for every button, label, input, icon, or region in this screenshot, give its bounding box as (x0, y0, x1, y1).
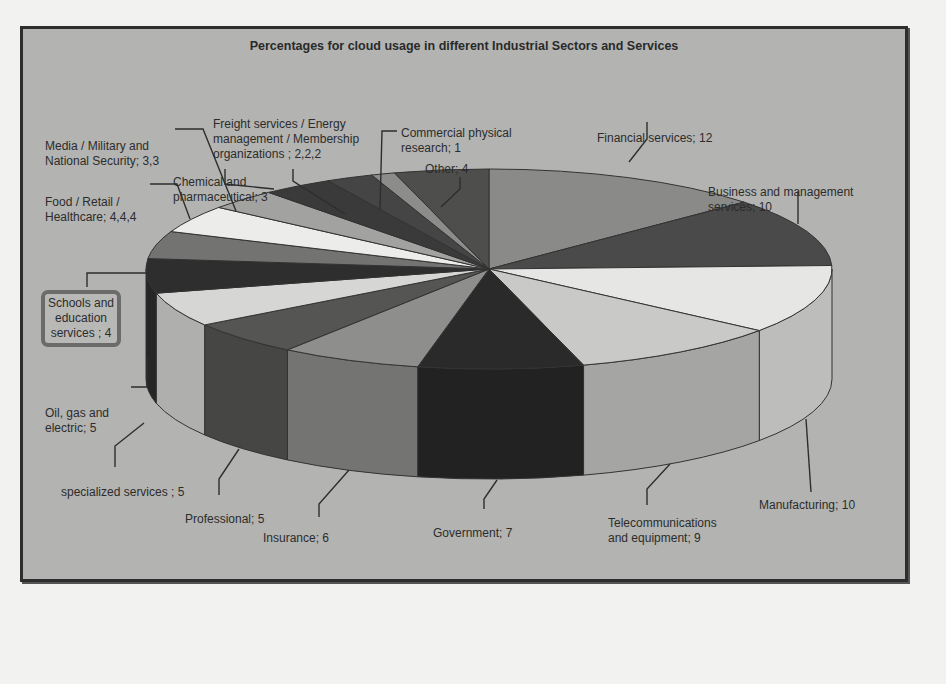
label-line: Schools and (48, 296, 114, 311)
label-manufacturing: Manufacturing; 10 (759, 498, 855, 513)
label-professional: Professional; 5 (185, 512, 264, 527)
label-government: Government; 7 (433, 526, 512, 541)
label-line: and equipment; 9 (608, 531, 717, 546)
label-line: management / Membership (213, 132, 359, 147)
label-line: Freight services / Energy (213, 117, 359, 132)
label-business-management: Business and management services; 10 (708, 185, 853, 215)
label-commercial-research: Commercial physical research; 1 (401, 126, 512, 156)
label-line: research; 1 (401, 141, 512, 156)
label-line: Healthcare; 4,4,4 (45, 210, 136, 225)
label-line: Media / Military and (45, 139, 159, 154)
label-telecommunications: Telecommunications and equipment; 9 (608, 516, 717, 546)
label-specialized-services: specialized services ; 5 (61, 485, 184, 500)
label-chemical-pharmaceutical: Chemical and pharmaceutical; 3 (173, 175, 268, 205)
label-line: Telecommunications (608, 516, 717, 531)
label-line: Chemical and (173, 175, 268, 190)
label-line: organizations ; 2,2,2 (213, 147, 359, 162)
label-oil-gas-electric: Oil, gas and electric; 5 (45, 406, 109, 436)
label-line: education (48, 311, 114, 326)
label-freight-energy-membership: Freight services / Energy management / M… (213, 117, 359, 162)
label-food-retail-healthcare: Food / Retail / Healthcare; 4,4,4 (45, 195, 136, 225)
label-other: Other; 4 (425, 162, 468, 177)
label-line: Food / Retail / (45, 195, 136, 210)
label-line: Commercial physical (401, 126, 512, 141)
label-line: Oil, gas and (45, 406, 109, 421)
label-line: services; 10 (708, 200, 853, 215)
label-line: services ; 4 (48, 326, 114, 341)
label-line: electric; 5 (45, 421, 109, 436)
label-financial-services: Financial services; 12 (597, 131, 712, 146)
label-line: Business and management (708, 185, 853, 200)
pie-side (418, 365, 584, 479)
chart-frame: Percentages for cloud usage in different… (20, 26, 908, 582)
pie-side (287, 350, 417, 477)
label-line: pharmaceutical; 3 (173, 190, 268, 205)
label-schools-education-highlighted: Schools and education services ; 4 (41, 290, 121, 347)
label-insurance: Insurance; 6 (263, 531, 329, 546)
label-line: National Security; 3,3 (45, 154, 159, 169)
label-media-military: Media / Military and National Security; … (45, 139, 159, 169)
